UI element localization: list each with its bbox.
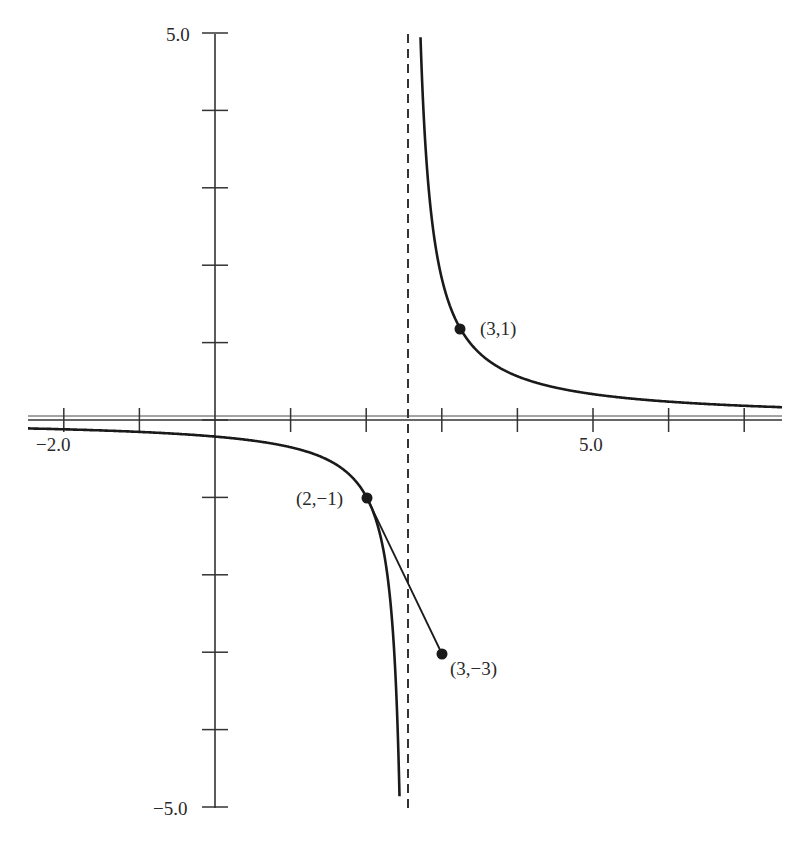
point-label-2-neg1: (2,−1) <box>296 488 343 510</box>
y-tick-label-5: 5.0 <box>166 24 190 45</box>
secant-segment <box>367 498 442 654</box>
chart-canvas: −2.0 5.0 5.0 −5.0 (3,1) (2,−1) (3,−3) <box>0 0 809 855</box>
y-tick-label-neg5: −5.0 <box>153 798 187 819</box>
point-2-neg1 <box>362 493 373 504</box>
point-3-neg3 <box>437 649 448 660</box>
point-3-1 <box>455 324 466 335</box>
point-label-3-1: (3,1) <box>480 318 516 340</box>
x-tick-label-neg2: −2.0 <box>36 434 70 455</box>
point-label-3-neg3: (3,−3) <box>450 658 497 680</box>
x-tick-label-5: 5.0 <box>579 434 603 455</box>
hyperbola-left-branch <box>28 428 400 796</box>
hyperbola-right-branch <box>421 37 783 407</box>
